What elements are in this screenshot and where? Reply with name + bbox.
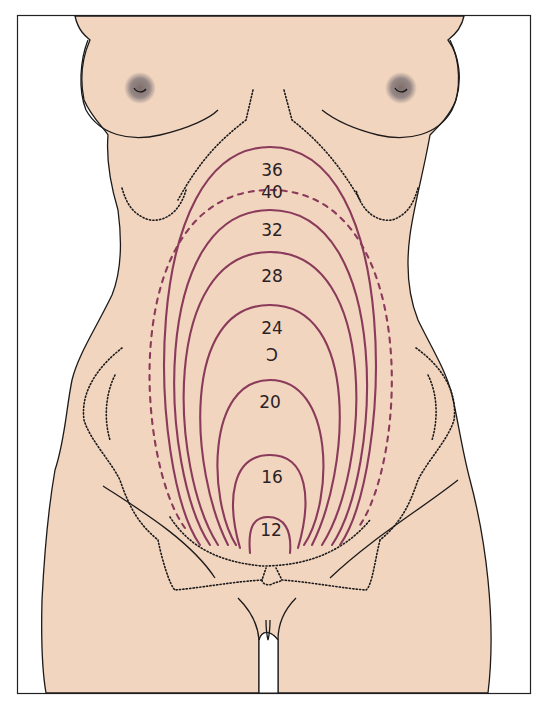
- week-label-28: 28: [261, 266, 283, 286]
- right-areola: [385, 72, 417, 104]
- week-label-24: 24: [261, 318, 283, 338]
- thigh-gap: [259, 633, 278, 694]
- left-areola: [124, 72, 156, 104]
- week-label-36: 36: [261, 160, 283, 180]
- fundal-height-diagram: 36 40 32 28 24 Ↄ 20 16 12: [0, 0, 537, 704]
- umbilicus-icon: Ↄ: [266, 345, 278, 365]
- week-label-12: 12: [260, 520, 282, 540]
- week-label-16: 16: [261, 467, 283, 487]
- week-label-32: 32: [261, 220, 283, 240]
- week-label-40: 40: [261, 182, 283, 202]
- week-label-20: 20: [259, 392, 281, 412]
